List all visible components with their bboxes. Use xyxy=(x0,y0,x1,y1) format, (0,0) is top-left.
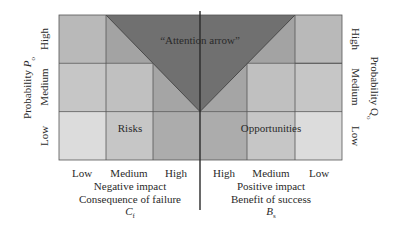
left-axis-symbol: P xyxy=(21,61,33,68)
bottom-left-tick-high: High xyxy=(165,167,187,179)
bs-symbol-letter: B xyxy=(266,205,273,217)
positive-impact-label: Positive impact xyxy=(237,180,305,192)
right-tick-medium: Medium xyxy=(350,68,362,105)
bs-symbol-subscript: s xyxy=(273,212,276,220)
right-tick-low: Low xyxy=(350,126,362,146)
risk-opportunity-diagram: “Attention arrow” Risks Opportunities Pr… xyxy=(0,0,395,233)
left-axis-title: Probability Po xyxy=(21,57,36,119)
right-axis-subscript: o xyxy=(365,116,373,120)
cf-symbol-subscript: f xyxy=(133,212,135,220)
bottom-left-tick-medium: Medium xyxy=(110,167,147,179)
left-tick-low: Low xyxy=(38,126,50,146)
consequence-of-failure-label: Consequence of failure xyxy=(79,193,181,205)
left-tick-high: High xyxy=(38,28,50,50)
left-tick-medium: Medium xyxy=(38,68,50,105)
right-axis-title: Probability Qo xyxy=(365,56,380,119)
right-axis-title-text: Probability xyxy=(369,56,381,108)
bottom-right-tick-medium: Medium xyxy=(252,167,289,179)
left-axis-title-text: Probability xyxy=(21,67,33,119)
benefit-of-success-label: Benefit of success xyxy=(231,193,311,205)
bottom-left-tick-low: Low xyxy=(72,167,92,179)
opportunities-label: Opportunities xyxy=(241,122,302,134)
cf-symbol: Cf xyxy=(125,205,135,222)
left-axis-subscript: o xyxy=(29,57,37,61)
negative-impact-label: Negative impact xyxy=(94,180,166,192)
right-axis-symbol: Q xyxy=(369,108,381,116)
right-tick-high: High xyxy=(350,28,362,50)
attention-arrow-label: “Attention arrow” xyxy=(160,34,240,46)
bottom-right-tick-high: High xyxy=(213,167,235,179)
bs-symbol: Bs xyxy=(266,205,275,222)
risks-label: Risks xyxy=(118,122,142,134)
bottom-right-tick-low: Low xyxy=(309,167,329,179)
